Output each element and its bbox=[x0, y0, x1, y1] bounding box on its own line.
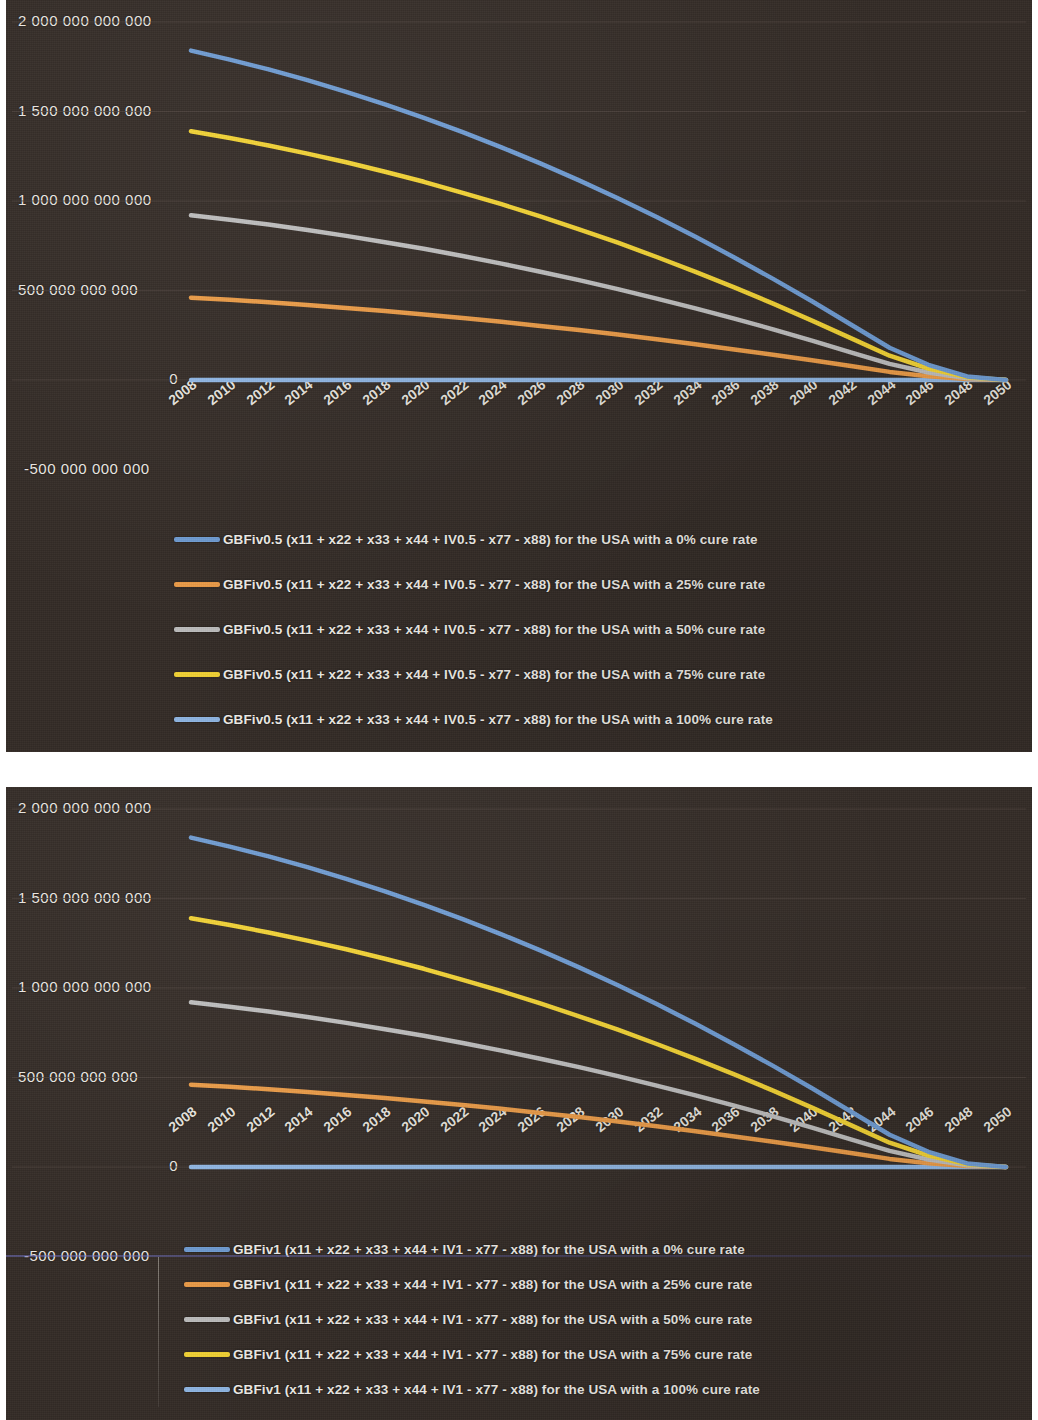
legend-color-swatch bbox=[184, 1247, 230, 1252]
legend-item[interactable]: GBFiv0.5 (x11 + x22 + x33 + x44 + IV0.5 … bbox=[174, 622, 765, 637]
legend-item-label: GBFiv1 (x11 + x22 + x33 + x44 + IV1 - x7… bbox=[233, 1277, 752, 1292]
legend-color-swatch bbox=[174, 582, 220, 587]
legend-item[interactable]: GBFiv0.5 (x11 + x22 + x33 + x44 + IV0.5 … bbox=[174, 667, 765, 682]
legend-color-swatch bbox=[184, 1282, 230, 1287]
legend-item[interactable]: GBFiv1 (x11 + x22 + x33 + x44 + IV1 - x7… bbox=[184, 1277, 752, 1292]
chart-panel-bottom: 2 000 000 000 0001 500 000 000 0001 000 … bbox=[6, 787, 1032, 1420]
figure-page: 2 000 000 000 0001 500 000 000 0001 000 … bbox=[0, 0, 1038, 1420]
legend-color-swatch bbox=[184, 1352, 230, 1357]
legend-color-swatch bbox=[174, 672, 220, 677]
legend-color-swatch bbox=[174, 627, 220, 632]
legend-item-label: GBFiv1 (x11 + x22 + x33 + x44 + IV1 - x7… bbox=[233, 1242, 745, 1257]
legend-item[interactable]: GBFiv1 (x11 + x22 + x33 + x44 + IV1 - x7… bbox=[184, 1312, 752, 1327]
legend-item[interactable]: GBFiv1 (x11 + x22 + x33 + x44 + IV1 - x7… bbox=[184, 1347, 752, 1362]
legend-item-label: GBFiv0.5 (x11 + x22 + x33 + x44 + IV0.5 … bbox=[223, 622, 765, 637]
legend-item-label: GBFiv1 (x11 + x22 + x33 + x44 + IV1 - x7… bbox=[233, 1347, 752, 1362]
series-line bbox=[191, 298, 1006, 380]
legend-item[interactable]: GBFiv0.5 (x11 + x22 + x33 + x44 + IV0.5 … bbox=[174, 532, 758, 547]
legend-item-label: GBFiv1 (x11 + x22 + x33 + x44 + IV1 - x7… bbox=[233, 1382, 760, 1397]
chart-series-lines bbox=[6, 0, 1032, 752]
legend-item[interactable]: GBFiv0.5 (x11 + x22 + x33 + x44 + IV0.5 … bbox=[174, 577, 765, 592]
legend-item-label: GBFiv0.5 (x11 + x22 + x33 + x44 + IV0.5 … bbox=[223, 577, 765, 592]
legend-item[interactable]: GBFiv1 (x11 + x22 + x33 + x44 + IV1 - x7… bbox=[184, 1242, 745, 1257]
legend-color-swatch bbox=[174, 717, 220, 722]
legend-item[interactable]: GBFiv0.5 (x11 + x22 + x33 + x44 + IV0.5 … bbox=[174, 712, 773, 727]
legend-item[interactable]: GBFiv1 (x11 + x22 + x33 + x44 + IV1 - x7… bbox=[184, 1382, 760, 1397]
legend-color-swatch bbox=[174, 537, 220, 542]
legend-color-swatch bbox=[184, 1317, 230, 1322]
legend-item-label: GBFiv0.5 (x11 + x22 + x33 + x44 + IV0.5 … bbox=[223, 532, 758, 547]
legend-item-label: GBFiv1 (x11 + x22 + x33 + x44 + IV1 - x7… bbox=[233, 1312, 752, 1327]
series-line bbox=[191, 1085, 1006, 1167]
legend-item-label: GBFiv0.5 (x11 + x22 + x33 + x44 + IV0.5 … bbox=[223, 667, 765, 682]
legend-color-swatch bbox=[184, 1387, 230, 1392]
legend-item-label: GBFiv0.5 (x11 + x22 + x33 + x44 + IV0.5 … bbox=[223, 712, 773, 727]
chart-panel-top: 2 000 000 000 0001 500 000 000 0001 000 … bbox=[6, 0, 1032, 752]
plot-area-top: 2 000 000 000 0001 500 000 000 0001 000 … bbox=[6, 0, 1032, 752]
